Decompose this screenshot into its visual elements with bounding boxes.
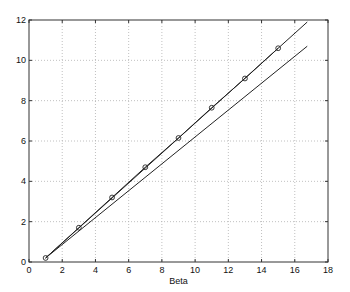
grid-lines — [29, 20, 328, 262]
x-tick-label: 16 — [290, 265, 300, 275]
x-tick-label: 6 — [126, 265, 131, 275]
y-tick-label: 0 — [21, 257, 26, 267]
x-tick-label: 8 — [159, 265, 164, 275]
y-tick-label: 2 — [21, 217, 26, 227]
x-tick-label: 2 — [60, 265, 65, 275]
x-axis-label: Beta — [169, 276, 188, 286]
data-series — [43, 22, 307, 260]
y-tick-label: 4 — [21, 176, 26, 186]
plot-frame — [29, 20, 328, 262]
y-tick-label: 8 — [21, 96, 26, 106]
y-tick-label: 10 — [16, 55, 26, 65]
y-tick-label: 6 — [21, 136, 26, 146]
x-tick-label: 18 — [323, 265, 333, 275]
x-tick-label: 0 — [26, 265, 31, 275]
lower-fit-line-line — [46, 46, 308, 258]
axis-ticks: 024681012141618024681012 — [16, 15, 333, 275]
x-tick-label: 10 — [190, 265, 200, 275]
x-tick-label: 14 — [257, 265, 267, 275]
line-chart: 024681012141618024681012 Beta — [0, 0, 350, 292]
y-tick-label: 12 — [16, 15, 26, 25]
upper-fit-line-line — [46, 22, 308, 258]
x-tick-label: 12 — [223, 265, 233, 275]
x-tick-label: 4 — [93, 265, 98, 275]
